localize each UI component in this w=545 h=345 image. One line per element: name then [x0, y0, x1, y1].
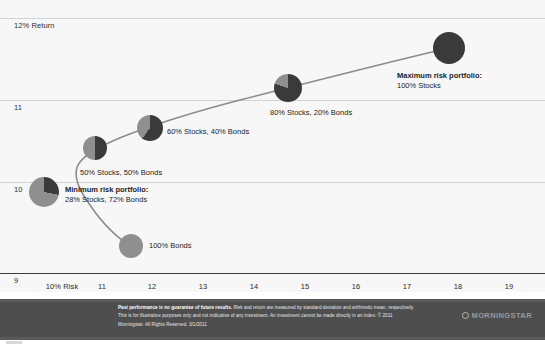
label-60-40: 60% Stocks, 40% Bonds: [167, 127, 249, 137]
x-tick-label-11: 11: [98, 282, 106, 291]
x-tick-label-14: 14: [250, 282, 259, 291]
label-100-bonds: 100% Bonds: [149, 241, 192, 251]
x-tick-label-12: 12: [148, 282, 157, 291]
x-tick-label-18: 18: [454, 282, 463, 291]
marker-min-risk[interactable]: [29, 177, 59, 207]
label-50-50: 50% Stocks, 50% Bonds: [80, 168, 162, 178]
x-axis-line: [0, 273, 545, 274]
plot-area: 12% Return 11 10 9 100% Bonds Minimum ri…: [0, 0, 545, 292]
gridline-11: [0, 100, 545, 101]
label-60-40-text: 60% Stocks, 40% Bonds: [167, 127, 249, 137]
morningstar-logo: MORNINGSTAR: [462, 311, 532, 320]
marker-100-stocks[interactable]: [433, 32, 465, 64]
label-50-50-text: 50% Stocks, 50% Bonds: [80, 168, 162, 178]
label-100-stocks-header: Maximum risk portfolio:: [397, 71, 482, 81]
gridline-12: [0, 18, 545, 19]
disclosure-text: Past performance is no guarantee of futu…: [118, 304, 418, 329]
y-tick-label-11: 11: [14, 103, 22, 112]
x-tick-label-10: 10% Risk: [46, 282, 78, 291]
morningstar-mark-icon: [462, 312, 469, 319]
morningstar-wordmark: MORNINGSTAR: [471, 311, 532, 320]
label-min-risk-header: Minimum risk portfolio:: [65, 185, 148, 195]
label-min-risk-text: 28% Stocks, 72% Bonds: [65, 195, 148, 205]
x-tick-label-19: 19: [505, 282, 514, 291]
marker-80-20[interactable]: [274, 74, 302, 102]
label-100-bonds-text: 100% Bonds: [149, 241, 192, 251]
gridline-10: [0, 182, 545, 183]
disclosure-bold: Past performance is no guarantee of futu…: [118, 305, 232, 310]
disclosure-footer: Past performance is no guarantee of futu…: [0, 299, 545, 340]
x-tick-label-16: 16: [352, 282, 361, 291]
x-tick-label-17: 17: [403, 282, 412, 291]
x-tick-label-13: 13: [199, 282, 208, 291]
label-80-20: 80% Stocks, 20% Bonds: [270, 108, 352, 118]
y-tick-label-9: 9: [14, 276, 18, 285]
marker-60-40[interactable]: [137, 115, 163, 141]
y-tick-label-12: 12% Return: [14, 21, 55, 30]
label-80-20-text: 80% Stocks, 20% Bonds: [270, 108, 352, 118]
page-edge-tick: [6, 341, 22, 344]
label-min-risk: Minimum risk portfolio: 28% Stocks, 72% …: [65, 185, 148, 205]
chart-page: 12% Return 11 10 9 100% Bonds Minimum ri…: [0, 0, 545, 345]
y-tick-label-10: 10: [14, 185, 23, 194]
marker-100-bonds[interactable]: [119, 234, 143, 258]
label-100-stocks-text: 100% Stocks: [397, 81, 482, 91]
label-100-stocks: Maximum risk portfolio: 100% Stocks: [397, 71, 482, 91]
x-tick-label-15: 15: [301, 282, 310, 291]
marker-50-50[interactable]: [83, 136, 107, 160]
